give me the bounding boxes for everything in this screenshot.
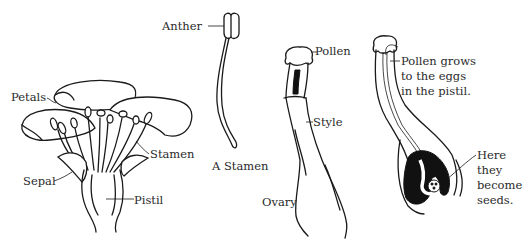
flower-diagram: Petals Stamen Sepal Pistil Anther A Stam… (0, 0, 530, 242)
label-ovary: Ovary (262, 195, 297, 209)
label-style: Style (313, 115, 343, 129)
label-pistil: Pistil (134, 193, 164, 207)
label-anther: Anther (161, 19, 203, 33)
label-pollen: Pollen (315, 44, 351, 58)
label-pollen-grows-3: in the pistil. (401, 84, 471, 98)
caption-a-stamen: A Stamen (211, 159, 269, 173)
label-pollen-grows-1: Pollen grows (401, 54, 476, 68)
label-seeds-3: become (477, 178, 522, 192)
pistil-pollen-illustration (284, 47, 347, 238)
single-stamen-illustration (217, 13, 239, 148)
label-sepal: Sepal (23, 174, 56, 188)
label-stamen: Stamen (150, 147, 195, 161)
label-seeds-1: Here (477, 148, 506, 162)
label-seeds-4: seeds. (477, 193, 513, 207)
label-pollen-grows-2: to the eggs (401, 69, 466, 83)
right-sepal (121, 155, 148, 176)
label-seeds-2: they (477, 163, 503, 177)
label-petals: Petals (11, 90, 46, 104)
